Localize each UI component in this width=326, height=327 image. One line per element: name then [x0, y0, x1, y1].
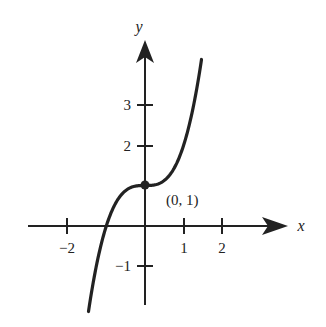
graph-figure: y x (0, 1) −2 1 2 3 2 −1 [0, 0, 326, 327]
point-marker [141, 181, 150, 190]
y-tick-label-neg1: −1 [115, 258, 131, 274]
x-tick-label-neg2: −2 [59, 240, 75, 256]
graph-canvas: y x (0, 1) −2 1 2 3 2 −1 [0, 0, 326, 327]
y-axis-label: y [133, 18, 143, 36]
y-tick-label-3: 3 [124, 97, 132, 113]
y-tick-label-2: 2 [124, 138, 132, 154]
x-tick-label-2: 2 [218, 240, 226, 256]
point-label: (0, 1) [166, 192, 199, 209]
x-tick-label-1: 1 [180, 240, 188, 256]
x-axis-label: x [296, 217, 304, 234]
